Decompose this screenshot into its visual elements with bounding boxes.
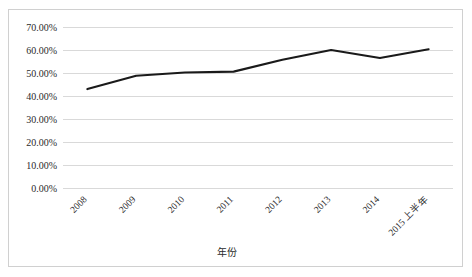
y-axis-tick-label: 10.00% (26, 160, 57, 171)
y-axis-tick-label: 30.00% (26, 114, 57, 125)
x-axis-tick-label: 2012 (263, 194, 284, 215)
y-axis-tick-label: 0.00% (31, 183, 57, 194)
x-axis-tick-label: 2011 (215, 194, 235, 214)
y-axis-tick-labels: 70.00%60.00%50.00%40.00%30.00%20.00%10.0… (26, 22, 57, 194)
x-axis-tick-label: 2014 (361, 194, 382, 215)
line-chart: 70.00%60.00%50.00%40.00%30.00%20.00%10.0… (9, 10, 462, 266)
chart-frame: 70.00%60.00%50.00%40.00%30.00%20.00%10.0… (8, 9, 463, 267)
y-axis-tick-label: 50.00% (26, 68, 57, 79)
y-axis-tick-label: 60.00% (26, 45, 57, 56)
x-axis-tick-label: 2008 (68, 194, 89, 215)
x-axis-title: 年份 (217, 246, 237, 258)
x-axis-tick-labels: 20082009201020112012201320142015 上半年 (68, 194, 430, 238)
x-axis-tick-label: 2013 (312, 194, 333, 215)
x-axis-tick-label: 2009 (117, 194, 138, 215)
x-axis-tick-label: 2015 上半年 (386, 194, 430, 238)
y-axis-tick-label: 40.00% (26, 91, 57, 102)
x-axis-tick-label: 2010 (166, 194, 187, 215)
gridlines (63, 28, 453, 189)
y-axis-tick-label: 70.00% (26, 22, 57, 33)
data-series-line (87, 49, 428, 89)
y-axis-tick-label: 20.00% (26, 137, 57, 148)
